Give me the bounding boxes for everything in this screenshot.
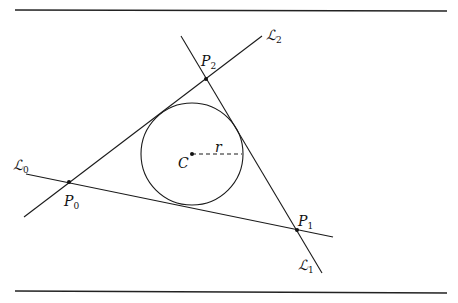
bottom-rule (15, 291, 447, 293)
point-p0 (67, 180, 71, 184)
point-p2 (204, 77, 208, 81)
top-rule (15, 10, 447, 11)
line-l2 (24, 36, 262, 217)
label-l1: ℒ1 (298, 257, 314, 275)
point-center-c (190, 152, 194, 156)
label-radius-r: r (215, 139, 223, 155)
incircle-diagram: ℒ0 ℒ1 ℒ2 P0 P1 P2 C r (0, 0, 458, 303)
label-l2: ℒ2 (266, 27, 282, 45)
label-p2: P2 (200, 53, 216, 71)
label-center-c: C (178, 155, 189, 171)
label-l0: ℒ0 (13, 157, 29, 175)
label-p0: P0 (63, 193, 79, 211)
label-p1: P1 (297, 213, 313, 231)
